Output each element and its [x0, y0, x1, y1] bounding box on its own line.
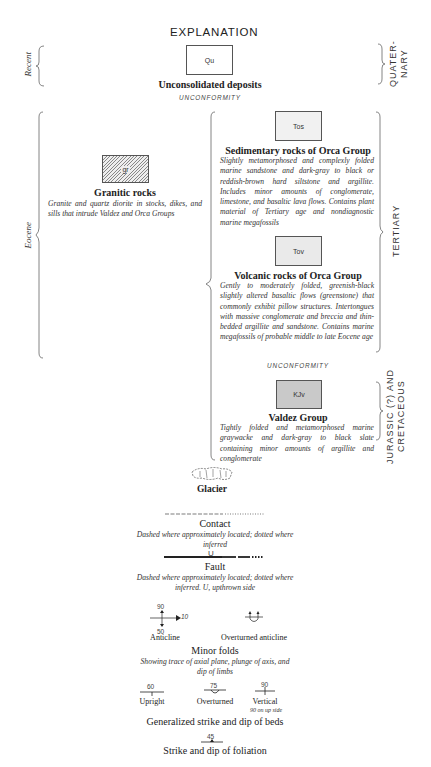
unit-desc-tov: Gently to moderately folded, greenish-bl…: [220, 281, 374, 343]
upright-label: Upright: [132, 697, 172, 706]
overturned-anticline-label: Overturned anticline: [208, 633, 300, 642]
bracket-recent: [36, 46, 46, 86]
unit-symbol-gr: gr: [121, 166, 129, 173]
foliation-label: Strike and dip of foliation: [140, 745, 290, 756]
unit-name-tov: Volcanic rocks of Orca Group: [218, 270, 378, 281]
unit-symbol-qu: Qu: [205, 57, 214, 64]
contact-label: Contact: [165, 518, 265, 529]
unit-box-kjv[interactable]: KJv: [276, 380, 322, 409]
unconformity-2: UNCONFORMITY: [248, 362, 348, 369]
fault-desc: Dashed where approximately located; dott…: [128, 573, 302, 594]
unit-box-tos[interactable]: Tos: [275, 111, 322, 141]
unit-name-kjv: Valdez Group: [218, 412, 378, 423]
unit-box-qu[interactable]: Qu: [186, 45, 233, 75]
foliation-dip: 45: [207, 733, 214, 740]
unit-desc-tos: Slightly metamorphosed and complexly fol…: [220, 156, 374, 228]
unit-name-gr: Granitic rocks: [65, 187, 185, 198]
overturned-anticline-icon: [245, 611, 263, 625]
unit-symbol-tos: Tos: [292, 123, 305, 130]
vertical-label: Vertical: [245, 697, 285, 706]
age-label-quaternary: QUATER- NARY: [388, 38, 410, 90]
unit-symbol-kjv: KJv: [293, 391, 305, 398]
unit-symbol-tov: Tov: [293, 248, 304, 255]
bracket-eocene: [36, 112, 44, 358]
anticline-label: Anticline: [137, 633, 193, 642]
anticline-icon: [150, 610, 184, 630]
unit-desc-kjv: Tightly folded and metamorphosed marine …: [220, 423, 374, 464]
upright-dip: 60: [147, 683, 154, 690]
overturned-bed-icon: [204, 688, 226, 696]
age-label-recent: Recent: [23, 52, 33, 76]
contact-desc: Dashed where approximately located; dott…: [130, 530, 300, 551]
glacier-icon: [190, 466, 234, 482]
overturned-label: Overturned: [190, 697, 240, 706]
fault-upthrown-marker: U: [208, 549, 214, 558]
unit-box-gr[interactable]: gr: [102, 155, 149, 183]
foliation-icon: [201, 740, 223, 744]
age-label-tertiary: TERTIARY: [391, 196, 402, 266]
unit-box-tov[interactable]: Tov: [275, 236, 322, 266]
unit-desc-gr: Granite and quartz diorite in stocks, di…: [48, 199, 202, 220]
age-label-eocene: Eocene: [23, 222, 33, 248]
unit-name-qu: Unconsolidated deposits: [150, 79, 270, 90]
vertical-note: 90 on up side: [240, 707, 292, 713]
age-label-jurassic-cretaceous: JURASSIC (?) AND CRETACEOUS: [385, 368, 407, 464]
unit-name-tos: Sedimentary rocks of Orca Group: [218, 145, 378, 156]
contact-line-icon: [165, 512, 265, 516]
fault-line-icon: [164, 550, 264, 560]
minor-folds-desc: Showing trace of axial plane, plunge of …: [135, 657, 295, 678]
vertical-bed-icon: [255, 686, 275, 696]
glacier-label: Glacier: [172, 484, 252, 494]
minor-folds-label: Minor folds: [165, 645, 265, 656]
beds-label: Generalized strike and dip of beds: [130, 716, 300, 727]
anticline-dip-top: 90: [157, 603, 164, 610]
unconformity-1: UNCONFORMITY: [160, 94, 260, 101]
bracket-quaternary: [378, 44, 386, 84]
bracket-intruded-units: [206, 112, 216, 460]
fault-label: Fault: [165, 561, 265, 572]
explanation-title: EXPLANATION: [170, 26, 258, 38]
upright-bed-icon: [140, 690, 164, 696]
bracket-jurassic-cretaceous: [376, 382, 384, 440]
